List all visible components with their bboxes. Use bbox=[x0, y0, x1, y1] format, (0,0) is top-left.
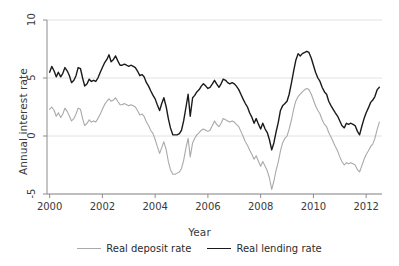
x-tick-label: 2012 bbox=[346, 201, 386, 212]
legend-item-0[interactable]: Real deposit rate bbox=[77, 243, 191, 254]
y-tick-label: 5 bbox=[26, 68, 37, 88]
legend-item-label: Real lending rate bbox=[236, 243, 321, 254]
x-tick-label: 2010 bbox=[293, 201, 333, 212]
legend-item-1[interactable]: Real lending rate bbox=[207, 243, 321, 254]
y-axis-title: Annual interest rate bbox=[0, 0, 22, 200]
x-tick-label: 2004 bbox=[135, 201, 175, 212]
chart-figure: Annual interest rate Year 1050-5 2000200… bbox=[0, 0, 399, 266]
y-tick-label: 0 bbox=[26, 126, 37, 146]
y-tick-label: 10 bbox=[26, 10, 37, 30]
x-tick-label: 2000 bbox=[30, 201, 70, 212]
x-axis-title: Year bbox=[0, 226, 399, 238]
legend-swatch-icon bbox=[207, 248, 231, 249]
legend-item-label: Real deposit rate bbox=[106, 243, 191, 254]
x-tick-label: 2006 bbox=[188, 201, 228, 212]
x-tick-label: 2002 bbox=[82, 201, 122, 212]
data-series bbox=[50, 51, 380, 189]
legend-swatch-icon bbox=[77, 248, 101, 249]
x-tick-label: 2008 bbox=[241, 201, 281, 212]
chart-legend: Real deposit rateReal lending rate bbox=[0, 243, 399, 254]
